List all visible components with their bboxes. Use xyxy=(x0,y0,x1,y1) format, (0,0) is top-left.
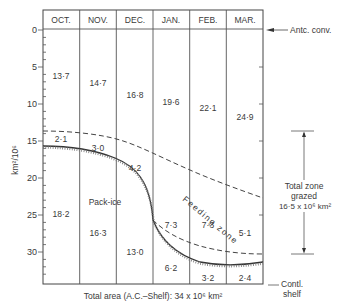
svg-text:18·2: 18·2 xyxy=(52,209,69,219)
svg-text:grazed: grazed xyxy=(291,191,317,201)
month-mar: MAR. xyxy=(234,15,255,25)
svg-text:6·2: 6·2 xyxy=(165,263,178,273)
svg-text:22·1: 22·1 xyxy=(199,103,216,113)
month-oct: OCT. xyxy=(51,15,70,25)
y-tick-0: 0 xyxy=(32,25,37,35)
svg-text:3·2: 3·2 xyxy=(202,273,215,283)
y-tick-10: 10 xyxy=(27,99,37,109)
svg-text:16·8: 16·8 xyxy=(126,90,143,100)
pack-ice-label: Pack-ice xyxy=(89,197,122,207)
svg-text:shelf: shelf xyxy=(283,289,302,299)
svg-text:Contl.: Contl. xyxy=(281,279,303,289)
svg-text:Antc. conv.: Antc. conv. xyxy=(290,25,331,35)
svg-text:4·2: 4·2 xyxy=(129,163,142,173)
svg-text:16·5 x 10⁶ km²: 16·5 x 10⁶ km² xyxy=(279,202,332,211)
antarctic-convergence-annotation: Antc. conv. xyxy=(266,25,331,35)
arrow-left-icon xyxy=(266,28,274,32)
month-dec: DEC. xyxy=(125,15,145,25)
svg-text:13·0: 13·0 xyxy=(126,247,143,257)
y-tick-5: 5 xyxy=(32,62,37,72)
svg-text:Total zone: Total zone xyxy=(285,181,324,191)
month-nov: NOV. xyxy=(88,15,108,25)
svg-text:5·1: 5·1 xyxy=(239,228,252,238)
arrow-up-icon xyxy=(302,132,306,138)
continental-shelf-annotation: Contl. shelf xyxy=(268,279,303,299)
svg-text:3·0: 3·0 xyxy=(92,143,105,153)
svg-text:24·9: 24·9 xyxy=(236,112,253,122)
y-tick-30: 30 xyxy=(27,247,37,257)
y-tick-25: 25 xyxy=(27,210,37,220)
month-feb: FEB. xyxy=(199,15,218,25)
total-area-caption: Total area (A.C.–Shelf): 34 x 10⁶ km² xyxy=(84,291,223,301)
svg-text:2·1: 2·1 xyxy=(55,134,68,144)
svg-text:2·4: 2·4 xyxy=(239,273,252,283)
arrow-down-icon xyxy=(302,248,306,254)
y-tick-15: 15 xyxy=(27,136,37,146)
svg-text:14·7: 14·7 xyxy=(89,78,106,88)
antarctic-zone-diagram: OCT. NOV. DEC. JAN. FEB. MAR. xyxy=(0,0,348,307)
svg-text:7·3: 7·3 xyxy=(165,220,178,230)
month-jan: JAN. xyxy=(162,15,180,25)
svg-text:16·3: 16·3 xyxy=(89,228,106,238)
svg-text:13·7: 13·7 xyxy=(52,71,69,81)
y-tick-20: 20 xyxy=(27,173,37,183)
total-zone-grazed-annotation: Total zone grazed 16·5 x 10⁶ km² xyxy=(279,131,332,254)
y-axis-label: km²/10⁶ xyxy=(10,145,20,174)
svg-text:19·6: 19·6 xyxy=(162,97,179,107)
month-headers: OCT. NOV. DEC. JAN. FEB. MAR. xyxy=(51,15,255,25)
pack-ice-values: 18·2 16·3 13·0 6·2 3·2 2·4 xyxy=(52,209,251,283)
